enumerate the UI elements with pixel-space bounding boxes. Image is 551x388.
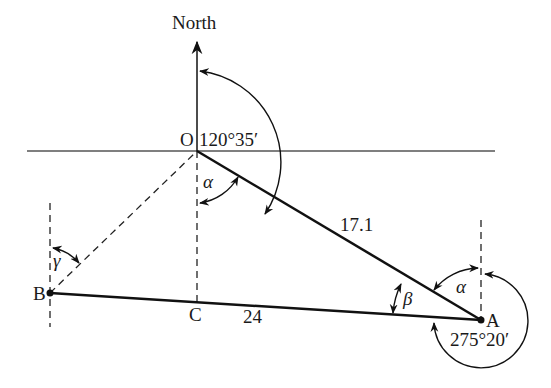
dashed-line-bo: [50, 151, 197, 293]
point-b-label: B: [33, 283, 46, 304]
beta-arc-a: [393, 284, 401, 313]
length-ab-label: 24: [243, 306, 263, 327]
alpha-o-label: α: [203, 171, 214, 192]
bearing-diagram: North O 120°35′ α 17.1 γ B C 24 β α A 27…: [0, 0, 551, 388]
point-a-dot: [478, 317, 485, 324]
bearing-oa-label: 120°35′: [199, 129, 258, 150]
point-c-label: C: [189, 304, 202, 325]
bearing-ab-label: 275°20′: [450, 329, 509, 350]
alpha-a-label: α: [456, 276, 467, 297]
point-a-label: A: [486, 310, 500, 331]
line-ba: [50, 293, 481, 320]
line-oa: [197, 151, 481, 320]
north-label: North: [172, 12, 217, 33]
length-oa-label: 17.1: [340, 214, 373, 235]
point-b-dot: [47, 290, 54, 297]
point-o-label: O: [180, 129, 194, 150]
beta-label: β: [402, 288, 413, 309]
gamma-label: γ: [53, 250, 61, 271]
